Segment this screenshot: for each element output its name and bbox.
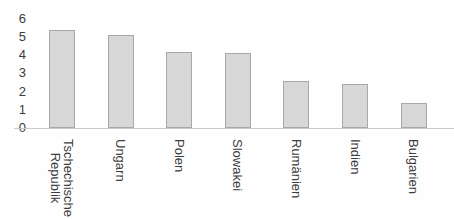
- bar-bulgarien: [401, 103, 427, 128]
- bar-tschechische-republik: [49, 30, 75, 128]
- bar-rum-nien: [283, 81, 309, 128]
- x-category-label: Rumänien: [290, 139, 303, 198]
- bar-polen: [166, 52, 192, 128]
- y-tick-label: 6: [0, 11, 26, 26]
- y-tick-label: 5: [0, 29, 26, 44]
- x-category-label: Bulgarien: [407, 139, 420, 194]
- x-category-label: Indien: [349, 139, 362, 174]
- x-category-label: Ungarn: [114, 139, 127, 182]
- bar-slowakei: [225, 53, 251, 128]
- x-category-label: Tschechische Republik: [49, 139, 75, 217]
- bar-indien: [342, 84, 368, 128]
- y-tick-label: 1: [0, 102, 26, 117]
- y-tick-label: 4: [0, 47, 26, 62]
- y-tick-label: 2: [0, 84, 26, 99]
- x-category-label: Slowakei: [231, 139, 244, 191]
- x-category-label: Polen: [173, 139, 186, 172]
- bar-ungarn: [108, 35, 134, 128]
- x-axis-line: [14, 128, 454, 129]
- y-tick-label: 3: [0, 65, 26, 80]
- bar-chart: 0123456 Tschechische RepublikUngarnPolen…: [0, 0, 454, 219]
